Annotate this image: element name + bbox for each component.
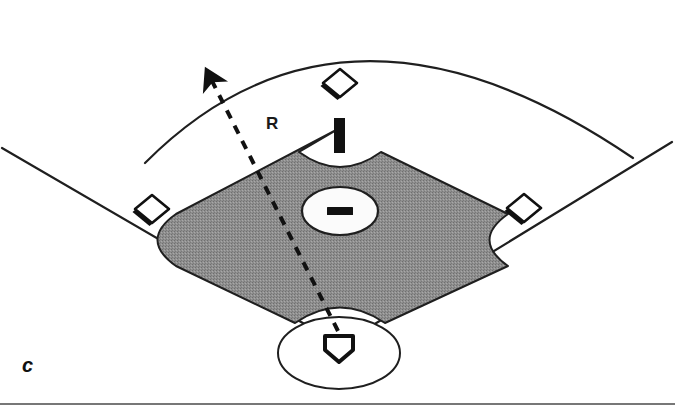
baseball-field-figure: R c xyxy=(0,0,675,415)
second-base-post-marker xyxy=(334,118,345,153)
field-diagram-canvas xyxy=(0,0,675,415)
pitching-rubber xyxy=(327,207,353,215)
panel-label-c: c xyxy=(22,355,33,375)
region-label-r: R xyxy=(266,115,278,132)
